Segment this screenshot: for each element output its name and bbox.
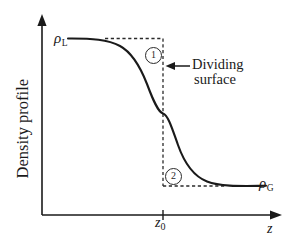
- rho-gas-label: ρG: [259, 176, 273, 192]
- dividing-surface-callout-label: Dividing surface: [192, 57, 244, 87]
- dividing-surface-line-2: surface: [192, 72, 244, 87]
- rho-liquid-label: ρL: [54, 31, 67, 47]
- dividing-surface-line-1: Dividing: [192, 56, 244, 72]
- x-axis-arrowhead-icon: [270, 210, 282, 219]
- dividing-surface-arrowhead-icon: [166, 62, 176, 70]
- rho-liquid-subscript: L: [62, 38, 68, 48]
- density-profile-figure: ρL ρG z z0 Density profile Dividing surf…: [0, 0, 291, 241]
- x-axis-label: z: [267, 222, 272, 237]
- y-axis-arrowhead-icon: [37, 14, 46, 26]
- region-two-marker: 2: [165, 168, 182, 185]
- x-axis-tick-label-z0: z0: [155, 216, 165, 231]
- y-axis-label: Density profile: [14, 54, 31, 204]
- rho-liquid-symbol: ρ: [54, 30, 61, 46]
- rho-gas-symbol: ρ: [259, 175, 266, 191]
- figure-canvas: [0, 0, 291, 241]
- rho-gas-subscript: G: [267, 183, 274, 193]
- region-one-marker: 1: [145, 47, 162, 64]
- z0-subscript: 0: [160, 221, 165, 232]
